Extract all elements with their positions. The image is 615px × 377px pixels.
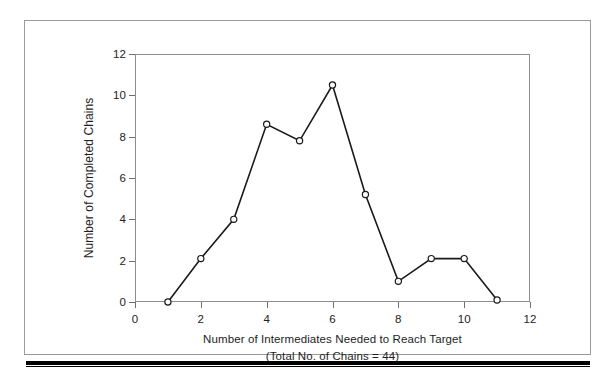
data-point-marker [494, 297, 500, 303]
x-tick-label: 10 [458, 313, 471, 325]
data-point-marker [165, 299, 171, 305]
x-axis-title: Number of Intermediates Needed to Reach … [135, 333, 530, 345]
x-tick-mark [135, 302, 136, 308]
figure-frame: Number of Completed Chains 024681012 024… [24, 20, 591, 355]
x-tick-label: 6 [329, 313, 336, 325]
y-tick-label: 2 [120, 255, 127, 267]
x-tick-mark [398, 302, 399, 308]
data-point-marker [329, 82, 335, 88]
data-point-marker [231, 216, 237, 222]
data-point-marker [395, 278, 401, 284]
x-tick-mark [464, 302, 465, 308]
y-tick-label: 0 [120, 296, 127, 308]
plot-area: 024681012 024681012 [135, 54, 530, 302]
y-tick-label: 10 [113, 89, 126, 101]
data-point-marker [362, 191, 368, 197]
data-point-marker [264, 121, 270, 127]
x-tick-mark [201, 302, 202, 308]
x-tick-label: 4 [263, 313, 270, 325]
bottom-rule-thick [26, 361, 590, 365]
x-tick-label: 2 [198, 313, 205, 325]
x-tick-label: 8 [395, 313, 402, 325]
x-tick-label: 12 [524, 313, 537, 325]
data-point-marker [428, 256, 434, 262]
data-series-line [135, 54, 530, 302]
x-tick-mark [333, 302, 334, 308]
series-markers [165, 82, 500, 305]
y-tick-label: 6 [120, 172, 127, 184]
x-tick-mark [530, 302, 531, 308]
data-point-marker [296, 138, 302, 144]
y-tick-label: 8 [120, 131, 127, 143]
bottom-rule-thin [26, 366, 590, 367]
x-axis-title-block: Number of Intermediates Needed to Reach … [135, 333, 530, 362]
x-tick-mark [267, 302, 268, 308]
series-polyline [168, 85, 497, 302]
y-axis-title: Number of Completed Chains [82, 54, 100, 302]
y-tick-label: 4 [120, 213, 127, 225]
x-tick-label: 0 [132, 313, 139, 325]
y-tick-label: 12 [113, 48, 126, 60]
data-point-marker [198, 256, 204, 262]
data-point-marker [461, 256, 467, 262]
